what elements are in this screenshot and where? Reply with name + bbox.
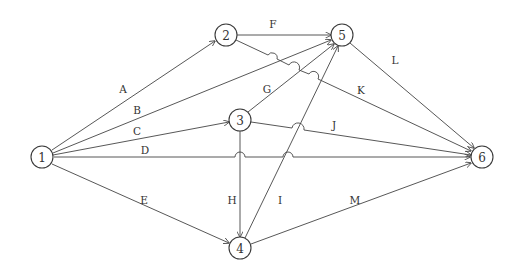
edge-d (54, 152, 470, 157)
node-2: 2 (215, 24, 237, 46)
edge-label-k: K (357, 84, 365, 96)
edge-label-j: J (331, 119, 336, 131)
node-6-label: 6 (478, 151, 486, 165)
edge-label-b: B (133, 104, 141, 116)
edge-g (248, 44, 334, 112)
node-3: 3 (229, 109, 251, 131)
network-diagram: A B C D E F G H I J K L M 1 2 3 4 5 6 (0, 0, 520, 278)
edge-m (251, 163, 471, 244)
edge-j (251, 122, 471, 155)
edge-b (53, 40, 331, 153)
edge-labels: A B C D E F G H I J K L M (118, 18, 398, 206)
node-5: 5 (331, 24, 353, 46)
node-1-label: 1 (38, 151, 46, 165)
edge-label-l: L (392, 54, 399, 66)
node-4-label: 4 (236, 242, 244, 256)
node-1: 1 (31, 146, 53, 168)
edge-label-m: M (350, 194, 361, 206)
edge-k (236, 40, 471, 151)
edge-label-e: E (140, 194, 148, 206)
edge-label-c: C (133, 125, 141, 137)
edge-label-d: D (141, 144, 149, 156)
node-2-label: 2 (222, 29, 230, 43)
node-5-label: 5 (338, 29, 346, 43)
edges (52, 35, 474, 244)
edge-label-f: F (269, 18, 276, 30)
node-3-label: 3 (236, 114, 244, 128)
node-6: 6 (471, 146, 493, 168)
node-4: 4 (229, 237, 251, 259)
edge-label-i: I (278, 194, 282, 206)
edge-label-h: H (227, 194, 236, 206)
edge-l (350, 43, 474, 148)
edge-label-a: A (118, 83, 127, 95)
edge-i (245, 46, 338, 238)
edge-label-g: G (263, 83, 271, 95)
